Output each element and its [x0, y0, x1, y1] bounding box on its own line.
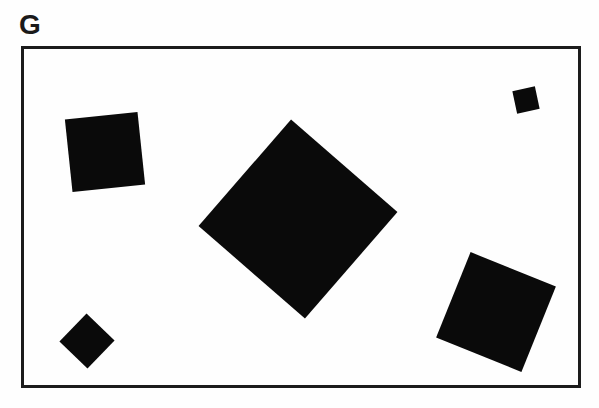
black-square-bottom-right	[436, 252, 556, 372]
figure-panel: G	[0, 0, 599, 408]
shapes-layer	[0, 0, 599, 408]
black-square-upper-left	[65, 112, 145, 192]
black-square-bottom-left-small	[59, 313, 114, 368]
black-square-center-large	[199, 120, 398, 319]
black-square-top-right-small	[512, 86, 539, 113]
